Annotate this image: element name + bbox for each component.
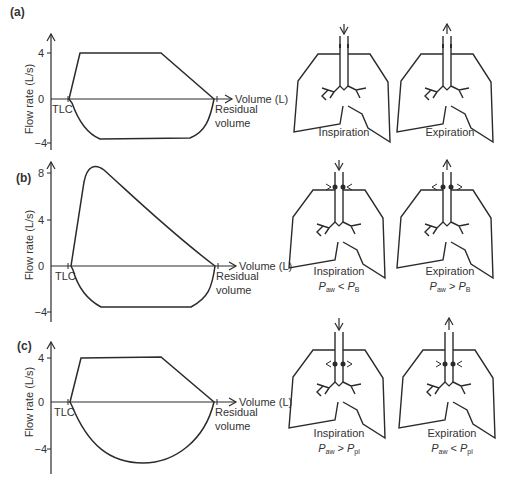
lung-inspiration-c: Inspiration Paw > Ppl	[289, 318, 385, 456]
rv-label: volume	[215, 117, 250, 129]
flow-volume-loop	[71, 166, 215, 307]
pressure-equation: Paw < Ppl	[431, 442, 473, 456]
panel-label: (c)	[17, 339, 32, 353]
panel-b: (b) 8 4 0 −4 Flow rate (L/s) Volume (L) …	[16, 162, 292, 322]
expiration-label: Expiration	[426, 126, 475, 138]
flow-volume-diagram: (a) 4 0 −4 Flow rate (L/s) Volume (L) TL…	[0, 0, 518, 483]
pressure-equation: Paw > PB	[430, 280, 471, 293]
pressure-equation: Paw > Ppl	[318, 442, 360, 456]
panel-a: (a) 4 0 −4 Flow rate (L/s) Volume (L) TL…	[10, 5, 288, 150]
inspiration-label: Inspiration	[314, 427, 365, 439]
ytick: 4	[38, 352, 44, 364]
ytick: −4	[34, 306, 47, 318]
ytick: 0	[38, 93, 44, 105]
y-axis-label: Flow rate (L/s)	[23, 64, 35, 134]
tlc-label: TLC	[52, 103, 73, 115]
tlc-label: TLC	[55, 270, 76, 282]
inspiration-label: Inspiration	[319, 126, 370, 138]
ytick: 0	[38, 396, 44, 408]
rv-label: volume	[215, 420, 250, 432]
flow-volume-loop	[69, 53, 214, 139]
lung-expiration-c: Expiration Paw < Ppl	[399, 318, 495, 456]
rv-label: Residual	[216, 270, 259, 282]
lung-inspiration-b: Inspiration Paw < PB	[289, 160, 385, 293]
y-axis-label: Flow rate (L/s)	[23, 367, 35, 437]
ytick: 8	[38, 167, 44, 179]
ytick: −4	[34, 137, 47, 149]
tlc-label: TLC	[54, 406, 75, 418]
panel-label: (a)	[10, 5, 25, 19]
lung-inspiration-a: Inspiration	[294, 24, 390, 142]
ytick: 0	[38, 260, 44, 272]
ytick: 4	[38, 214, 44, 226]
panel-label: (b)	[16, 171, 31, 185]
rv-label: Residual	[215, 103, 258, 115]
rv-label: volume	[216, 284, 251, 296]
y-axis-label: Flow rate (L/s)	[23, 210, 35, 280]
lung-expiration-a: Expiration	[397, 24, 493, 142]
rv-label: Residual	[215, 406, 258, 418]
panel-c: (c) 4 0 −4 Flow rate (L/s) Volume (L) TL…	[17, 339, 292, 474]
expiration-label: Expiration	[426, 265, 475, 277]
inspiration-label: Inspiration	[314, 265, 365, 277]
pressure-equation: Paw < PB	[319, 280, 360, 293]
lung-expiration-b: Expiration Paw > PB	[397, 160, 493, 293]
flow-volume-loop	[70, 357, 214, 463]
ytick: −4	[34, 443, 47, 455]
expiration-label: Expiration	[428, 427, 477, 439]
ytick: 4	[38, 47, 44, 59]
